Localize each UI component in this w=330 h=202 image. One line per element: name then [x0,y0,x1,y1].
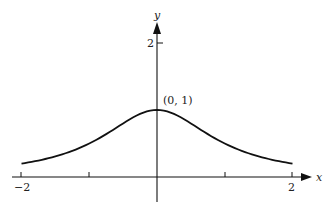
y-axis-arrow-icon [153,22,161,34]
y-axis-label: y [153,9,161,22]
point-annotation: (0, 1) [163,94,193,107]
x-axis [12,172,312,181]
y-axis [153,22,163,202]
chart: −2 2 x y 2 (0, 1) [0,0,330,202]
x-axis-arrow-icon [301,173,312,181]
x-axis-label: x [316,171,323,184]
y-tick-label: 2 [147,37,154,50]
x-max-label: 2 [288,181,295,194]
x-min-label: −2 [14,181,30,194]
